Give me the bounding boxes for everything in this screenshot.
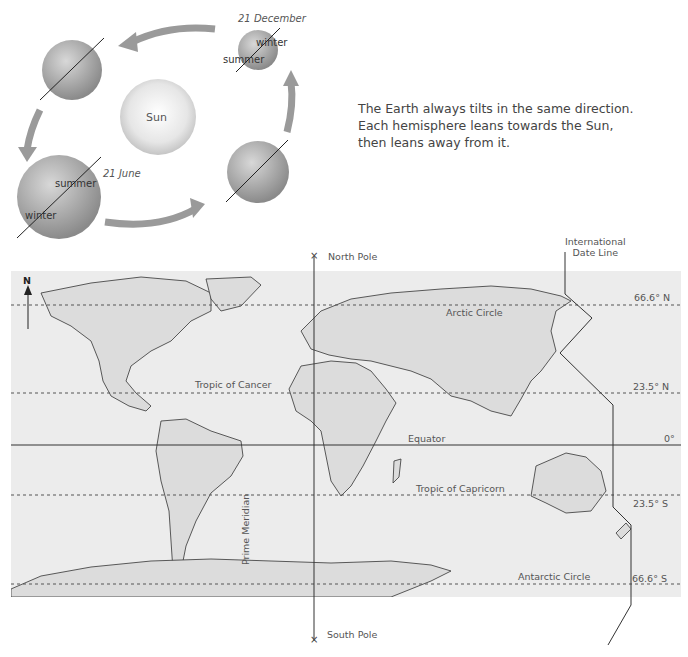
continents [11,277,631,597]
cancer-latitude-label: 23.5° N [633,381,669,392]
june-label: 21 June [103,168,141,179]
world-map [11,271,681,597]
sun-label: Sun [146,111,167,124]
december-winter-label: winter [256,37,287,48]
tilt-description: The Earth always tilts in the same direc… [358,100,688,151]
date-line-text: International [565,236,626,247]
capricorn-latitude-label: 23.5° S [633,498,668,509]
june-winter-label: winter [25,210,56,221]
june-summer-label: summer [55,178,96,189]
description-line: Each hemisphere leans towards the Sun, [358,117,688,134]
equator-latitude-label: 0° [664,433,675,444]
earth-june-icon [17,155,101,239]
south-pole-marker: × [310,634,318,645]
tropic-of-cancer-label: Tropic of Cancer [195,379,271,390]
prime-meridian-label: Prime Meridian [240,494,251,565]
arctic-circle-label: Arctic Circle [446,307,503,318]
map-graphic [11,271,681,597]
north-arrow-icon [24,285,32,329]
south-pole-label: South Pole [327,629,377,640]
prime-meridian-text: Prime Meridian [240,494,251,565]
earth-icon [226,140,289,203]
description-line: The Earth always tilts in the same direc… [358,100,688,117]
earth-december-icon [236,28,280,72]
date-line-text: Date Line [565,247,626,258]
equator-label: Equator [408,433,445,444]
antarctic-latitude-label: 66.6° S [632,573,667,584]
description-line: then leans away from it. [358,134,688,151]
december-summer-label: summer [223,54,264,65]
antarctic-circle-label: Antarctic Circle [518,571,590,582]
north-pole-marker: × [310,250,318,261]
arctic-latitude-label: 66.6° N [634,292,670,303]
date-line-label: International Date Line [565,236,626,258]
north-label: N [23,275,31,286]
december-label: 21 December [238,13,306,24]
earth-icon [40,38,104,100]
north-pole-label: North Pole [328,251,377,262]
tropic-of-capricorn-label: Tropic of Capricorn [416,483,505,494]
